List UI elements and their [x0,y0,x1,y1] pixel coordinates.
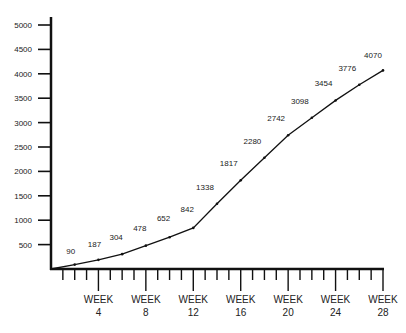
data-point [216,202,219,205]
data-point [121,253,124,256]
data-point [145,244,148,247]
x-tick-label-number: 12 [188,307,200,318]
x-tick-label: WEEK [226,294,256,305]
data-label: 3454 [315,79,333,88]
data-label: 1817 [220,159,238,168]
data-labels: 9018730447865284213381817228027423098345… [66,51,382,255]
x-tick-label-number: 8 [143,307,149,318]
x-tick-label-number: 20 [283,307,295,318]
data-label: 187 [88,240,102,249]
x-tick-label-number: 28 [377,307,389,318]
x-tick-label-number: 24 [330,307,342,318]
data-point [287,134,290,137]
data-point [358,83,361,86]
data-point [192,227,195,230]
y-tick-label: 5000 [14,21,32,30]
x-tick-label: WEEK [321,294,351,305]
data-label: 842 [181,205,195,214]
x-tick-label: WEEK [273,294,303,305]
data-point [239,179,242,182]
x-tick-label-number: 16 [235,307,247,318]
data-point [73,263,76,266]
data-label: 304 [109,233,123,242]
y-tick-label: 4500 [14,45,32,54]
y-axis: 500100015002000250030003500400045005000 [14,17,51,270]
y-tick-label: 3000 [14,119,32,128]
x-tick-label: WEEK [368,294,398,305]
data-point [382,69,385,72]
data-label: 3776 [338,64,356,73]
data-label: 3098 [291,97,309,106]
y-tick-label: 1500 [14,192,32,201]
y-tick-label: 500 [19,241,33,250]
data-label: 2742 [267,114,285,123]
x-tick-label: WEEK [179,294,209,305]
data-label: 2280 [244,137,262,146]
y-tick-label: 1000 [14,216,32,225]
data-label: 1338 [196,183,214,192]
y-tick-label: 3500 [14,94,32,103]
x-tick-label: WEEK [131,294,161,305]
data-point [334,99,337,102]
x-tick-label-number: 4 [96,307,102,318]
data-label: 90 [66,247,75,256]
data-point [311,117,314,120]
y-tick-label: 4000 [14,70,32,79]
y-tick-label: 2500 [14,143,32,152]
line-chart: 500100015002000250030003500400045005000 … [0,0,406,333]
x-axis: WEEK4WEEK8WEEK12WEEK16WEEK20WEEK24WEEK28 [50,269,398,318]
data-label: 652 [157,214,171,223]
data-label: 4070 [364,51,382,60]
data-point [97,259,100,262]
data-label: 478 [133,224,147,233]
y-tick-label: 2000 [14,167,32,176]
x-tick-label: WEEK [84,294,114,305]
data-point [263,156,266,159]
data-point [168,236,171,239]
